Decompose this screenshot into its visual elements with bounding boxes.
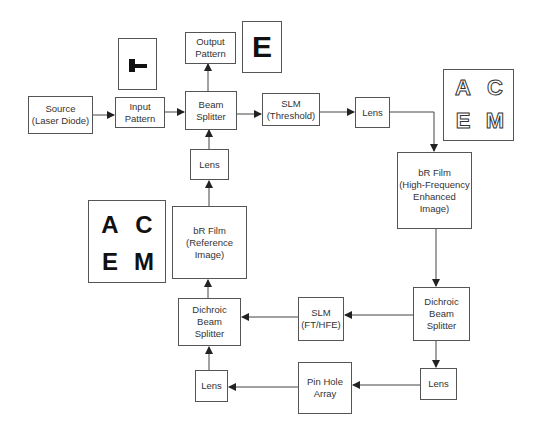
input-pattern-image [118, 38, 157, 90]
letter-e: E [243, 31, 281, 63]
node-label: Lens [428, 378, 449, 390]
letter: E [95, 248, 125, 276]
node-label: Pattern [125, 113, 156, 125]
lens-top-node: Lens [355, 97, 390, 128]
dichroic-beam-splitter-right-node: Dichroic Beam Splitter [413, 287, 470, 341]
lens-bottom-left-node: Lens [195, 370, 228, 402]
node-label: bR Film [193, 225, 226, 237]
dichroic-beam-splitter-left-node: Dichroic Beam Splitter [178, 298, 241, 346]
node-label: Beam [429, 308, 454, 320]
slm-ft-hfe-node: SLM (FT/HFE) [298, 297, 344, 341]
node-label: (High-Frequency [399, 179, 470, 191]
node-label: Lens [201, 380, 222, 392]
br-film-hfe-node: bR Film (High-Frequency Enhanced Image) [397, 152, 472, 229]
br-film-reference-node: bR Film (Reference Image) [172, 206, 247, 279]
outline-letter: E [450, 108, 476, 134]
node-label: Image) [195, 249, 225, 261]
node-label: bR Film [418, 167, 451, 179]
outline-letter: A [450, 75, 476, 101]
node-label: Lens [199, 159, 220, 171]
node-label: Input [129, 101, 150, 113]
optical-system-diagram: Source (Laser Diode) Input Pattern Beam … [0, 0, 543, 434]
node-label: (Threshold) [267, 110, 316, 122]
partial-letter-shape [135, 64, 147, 68]
hfe-outline-letters-image: A C E M [443, 69, 514, 141]
node-label: Image) [420, 203, 450, 215]
node-label: Output [196, 36, 225, 48]
node-label: Pattern [195, 48, 226, 60]
lens-bottom-right-node: Lens [420, 368, 457, 400]
node-label: Pin Hole [307, 376, 343, 388]
node-label: (Reference [186, 237, 233, 249]
node-label: Array [314, 388, 337, 400]
input-pattern-node: Input Pattern [115, 97, 165, 128]
node-label: Dichroic [192, 304, 226, 316]
letter: A [95, 211, 125, 239]
node-label: SLM [311, 307, 331, 319]
node-label: Splitter [427, 320, 457, 332]
node-label: Lens [362, 107, 383, 119]
node-label: Source [45, 103, 75, 115]
node-label: Splitter [195, 328, 225, 340]
node-label: Dichroic [424, 296, 458, 308]
lens-middle-node: Lens [190, 149, 229, 180]
node-label: Splitter [196, 111, 226, 123]
node-label: Beam [199, 99, 224, 111]
reference-letters-image: A C E M [88, 200, 166, 283]
node-label: Beam [197, 316, 222, 328]
node-label: Enhanced [413, 191, 456, 203]
output-pattern-image: E [242, 21, 282, 73]
node-label: (FT/HFE) [301, 319, 341, 331]
letter: M [129, 248, 159, 276]
letter: C [129, 211, 159, 239]
output-pattern-node: Output Pattern [185, 32, 236, 64]
pin-hole-array-node: Pin Hole Array [298, 362, 352, 414]
beam-splitter-node: Beam Splitter [185, 91, 237, 130]
node-label: SLM [281, 98, 301, 110]
outline-letter: C [482, 75, 508, 101]
slm-threshold-node: SLM (Threshold) [262, 93, 320, 126]
outline-letter: M [482, 108, 508, 134]
source-laser-diode-node: Source (Laser Diode) [28, 96, 93, 134]
node-label: (Laser Diode) [32, 115, 90, 127]
